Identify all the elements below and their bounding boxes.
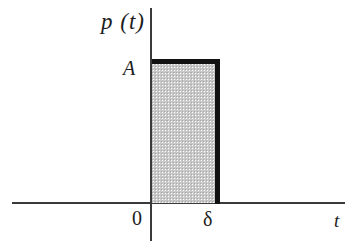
- pulse-right-edge: [215, 59, 220, 204]
- amplitude-label: A: [123, 58, 135, 78]
- origin-label: 0: [132, 208, 142, 228]
- pulse-width-label: δ: [203, 209, 212, 229]
- x-axis-label: t: [334, 211, 339, 230]
- pulse-waveform-figure: p (t) A 0 δ t: [0, 0, 357, 250]
- y-axis-label: p (t): [101, 10, 145, 33]
- pulse-top-edge: [152, 59, 220, 64]
- pulse-area-fill: [152, 60, 216, 203]
